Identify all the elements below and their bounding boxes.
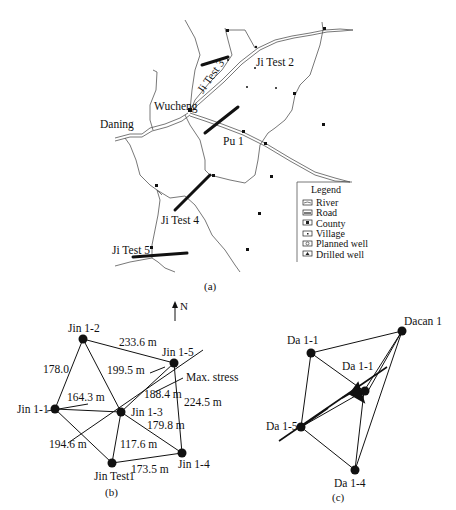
- well-dot-jin-1-1: [51, 405, 60, 414]
- well-dot-da-1-1-center: [361, 387, 370, 396]
- label-daning: Daning: [100, 118, 134, 131]
- well-dot-jin-1-5: [170, 359, 179, 368]
- well-label-jin-test1: Jin Test1: [94, 470, 135, 482]
- well-label-jin-1-4: Jin 1-4: [178, 458, 210, 470]
- well-network-panel-c: Da 1-1 Dacan 1 Da 1-1 Da 1-5 Da 1-4 (c): [266, 315, 442, 504]
- well-dot-da-1-4: [351, 466, 360, 475]
- label-ji-test-4: Ji Test 4: [161, 214, 199, 226]
- distance-jin12-jin15: 233.6 m: [119, 336, 157, 348]
- well-label-da-1-1-left: Da 1-1: [287, 334, 319, 346]
- distance-jin13-jintest1: 117.6 m: [120, 438, 157, 450]
- legend: Legend River Road County Village P: [297, 182, 368, 262]
- legend-item-drilled-well: Drilled well: [316, 249, 364, 260]
- label-ji-test-2: Ji Test 2: [256, 56, 294, 68]
- caption-c: (c): [332, 491, 345, 504]
- well-dot-dacan-1: [398, 327, 407, 336]
- distance-jin13-jin15: 188.4 m: [144, 388, 182, 400]
- ji-test-4-line: [175, 175, 210, 210]
- well-label-dacan-1: Dacan 1: [404, 315, 442, 327]
- north-label: N: [180, 300, 188, 312]
- distance-jin13-jin14: 179.8 m: [147, 419, 185, 431]
- distance-jin11-jin12: 178.0: [43, 363, 69, 375]
- caption-b: (b): [105, 486, 118, 499]
- north-arrow-icon: [172, 301, 178, 308]
- label-wucheng: Wucheng: [154, 100, 198, 113]
- distance-jin15-jin14: 224.5 m: [184, 396, 222, 408]
- distance-jintest1-jin14: 173.5 m: [131, 463, 169, 475]
- legend-title: Legend: [311, 184, 341, 195]
- caption-a: (a): [204, 280, 217, 293]
- distance-jin11-jintest1: 194.6 m: [49, 438, 87, 450]
- well-label-jin-1-3: Jin 1-3: [131, 406, 163, 418]
- distance-jin11-jin13: 164.3 m: [67, 391, 105, 403]
- well-network-panel-b: Jin 1-2 Jin 1-5 Jin 1-1 Jin 1-3 Jin 1-4 …: [17, 322, 239, 499]
- well-dot-jin-1-3: [117, 408, 126, 417]
- label-ji-test-5: Ji Test 5: [112, 244, 150, 256]
- well-dot-jin-test1: [108, 459, 117, 468]
- well-label-jin-1-2: Jin 1-2: [68, 322, 100, 334]
- north-arrow: N: [172, 300, 188, 321]
- legend-item-planned-well: Planned well: [316, 238, 368, 249]
- distance-jin12-jin13: 199.5 m: [107, 364, 145, 376]
- well-dot-da-1-1-left: [307, 349, 316, 358]
- max-stress-label: Max. stress: [186, 371, 239, 383]
- well-dot-jin-1-2: [79, 335, 88, 344]
- legend-item-road: Road: [316, 207, 337, 218]
- well-dot-da-1-5: [297, 423, 306, 432]
- well-label-da-1-1-center: Da 1-1: [342, 360, 374, 372]
- well-label-jin-1-1: Jin 1-1: [17, 403, 49, 415]
- map-panel-a: Wucheng Daning Pu 1 Ji Test 2 Ji Test 3 …: [100, 20, 368, 293]
- well-label-jin-1-5: Jin 1-5: [162, 346, 194, 358]
- well-dot-jin-1-4: [178, 449, 187, 458]
- well-label-da-1-4: Da 1-4: [334, 477, 366, 489]
- label-pu1: Pu 1: [223, 135, 244, 147]
- well-label-da-1-5: Da 1-5: [266, 420, 298, 432]
